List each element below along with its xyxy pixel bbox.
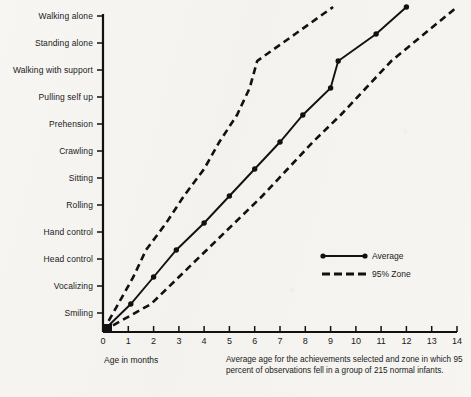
figure-caption: Average age for the achievements selecte… bbox=[226, 355, 471, 376]
x-tick-label-2: 2 bbox=[146, 336, 162, 346]
x-axis-title: Age in months bbox=[104, 355, 158, 365]
x-tick-label-3: 3 bbox=[171, 336, 187, 346]
y-label-rolling: Rolling bbox=[66, 200, 93, 210]
average-data-point bbox=[328, 85, 333, 90]
x-tick-label-7: 7 bbox=[272, 336, 288, 346]
x-tick-label-11: 11 bbox=[373, 336, 389, 346]
x-tick-label-1: 1 bbox=[120, 336, 136, 346]
legend-average-marker-end bbox=[362, 253, 367, 258]
legend-average-marker-start bbox=[320, 253, 325, 258]
y-label-standing-alone: Standing alone bbox=[35, 38, 93, 48]
x-tick-label-0: 0 bbox=[95, 336, 111, 346]
y-label-pulling-self-up: Pulling self up bbox=[39, 92, 93, 102]
zone-lower-curve bbox=[103, 7, 333, 331]
average-data-point bbox=[227, 193, 232, 198]
y-label-crawling: Crawling bbox=[59, 146, 93, 156]
x-tick-label-10: 10 bbox=[348, 336, 364, 346]
y-label-sitting: Sitting bbox=[69, 173, 93, 183]
average-data-point bbox=[336, 58, 341, 63]
average-data-point bbox=[277, 139, 282, 144]
x-tick-label-6: 6 bbox=[247, 336, 263, 346]
chart-figure: Walking alone Standing alone Walking wit… bbox=[0, 0, 471, 397]
x-tick-label-8: 8 bbox=[297, 336, 313, 346]
y-label-smiling: Smiling bbox=[64, 308, 93, 318]
average-data-point bbox=[201, 220, 206, 225]
average-data-point bbox=[252, 166, 257, 171]
y-label-hand-control: Hand control bbox=[44, 227, 93, 237]
x-tick-label-12: 12 bbox=[398, 336, 414, 346]
x-tick-label-4: 4 bbox=[196, 336, 212, 346]
zone-upper-curve bbox=[103, 7, 457, 331]
y-label-vocalizing: Vocalizing bbox=[54, 281, 93, 291]
average-data-point bbox=[151, 274, 156, 279]
average-data-point bbox=[373, 31, 378, 36]
y-label-prehension: Prehension bbox=[49, 119, 93, 129]
legend-label-average: Average bbox=[372, 251, 404, 261]
legend-label-zone: 95% Zone bbox=[372, 269, 411, 279]
average-data-point bbox=[300, 112, 305, 117]
x-tick-label-13: 13 bbox=[424, 336, 440, 346]
average-data-point bbox=[404, 4, 409, 9]
x-tick-label-5: 5 bbox=[221, 336, 237, 346]
average-data-point bbox=[174, 247, 179, 252]
y-label-walking-alone: Walking alone bbox=[39, 11, 93, 21]
average-data-point bbox=[128, 301, 133, 306]
y-label-head-control: Head control bbox=[44, 254, 93, 264]
y-label-walking-with-support: Walking with support bbox=[13, 65, 93, 75]
x-tick-label-9: 9 bbox=[323, 336, 339, 346]
x-tick-label-14: 14 bbox=[449, 336, 465, 346]
